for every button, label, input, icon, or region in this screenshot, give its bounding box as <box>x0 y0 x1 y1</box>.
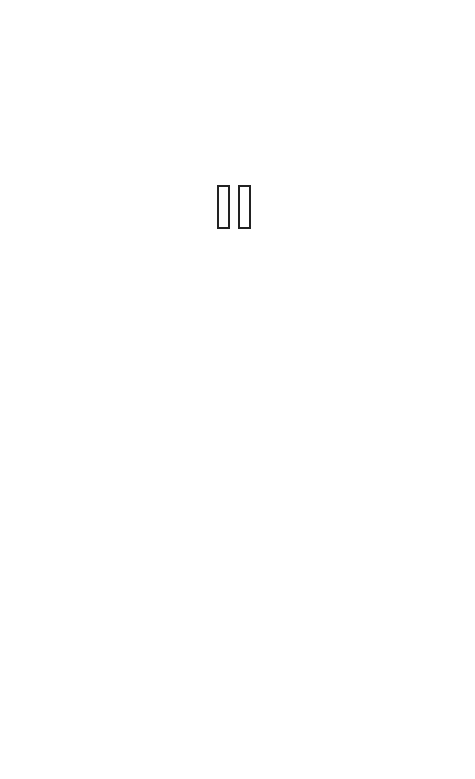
missing-glyph-box-icon: ▯ <box>217 185 230 229</box>
unrendered-text: ▯ ▯ <box>217 185 251 229</box>
missing-glyph-box-icon: ▯ <box>238 185 251 229</box>
blank-page: ▯ ▯ <box>0 0 475 779</box>
